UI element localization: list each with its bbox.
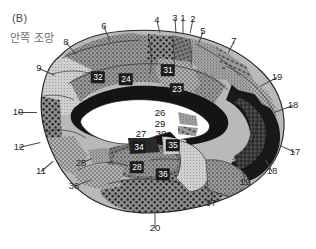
- area-24-label: 24: [119, 73, 133, 85]
- area-17-label: 17: [290, 147, 301, 157]
- area-7-label: 7: [231, 36, 236, 46]
- area-6-label: 6: [101, 21, 106, 31]
- area-9-label: 9: [36, 63, 41, 73]
- area-34-label: 34: [132, 141, 146, 153]
- area-35-label: 35: [166, 139, 180, 151]
- area-10-label: 10: [13, 107, 24, 117]
- area-31-label: 31: [161, 64, 175, 76]
- area-33-label: 33: [96, 92, 107, 102]
- area-26-label: 26: [155, 108, 166, 118]
- area-25-label: 25: [76, 158, 87, 168]
- area-32-label: 32: [91, 71, 105, 83]
- area-1-label: 1: [180, 13, 185, 23]
- area-5-label: 5: [200, 26, 205, 36]
- area-30-label: 30: [156, 129, 167, 139]
- area-20-label: 20: [150, 223, 161, 233]
- area-38-label: 38: [69, 181, 80, 191]
- area-23-label: 23: [170, 83, 184, 95]
- area-18-lower-label: 18: [267, 166, 278, 176]
- area-2-label: 2: [190, 14, 195, 24]
- brain-medial-view-figure: (B) 안쪽 조망 643125789101211382520371918171…: [0, 0, 316, 249]
- area-4-label: 4: [154, 15, 159, 25]
- area-36-label: 36: [156, 168, 170, 180]
- area-3-label: 3: [172, 13, 177, 23]
- area-18-upper-label: 18: [288, 100, 299, 110]
- area-12-label: 12: [14, 142, 25, 152]
- view-caption: 안쪽 조망: [10, 29, 55, 45]
- area-11-label: 11: [36, 166, 46, 176]
- area-8-label: 8: [63, 37, 68, 47]
- panel-letter: (B): [12, 12, 27, 24]
- area-37-label: 37: [206, 198, 217, 208]
- area-19-lower-label: 19: [240, 177, 251, 187]
- area-27-label: 27: [136, 129, 147, 139]
- area-19-upper-label: 19: [272, 72, 283, 82]
- area-28-label: 28: [130, 161, 144, 173]
